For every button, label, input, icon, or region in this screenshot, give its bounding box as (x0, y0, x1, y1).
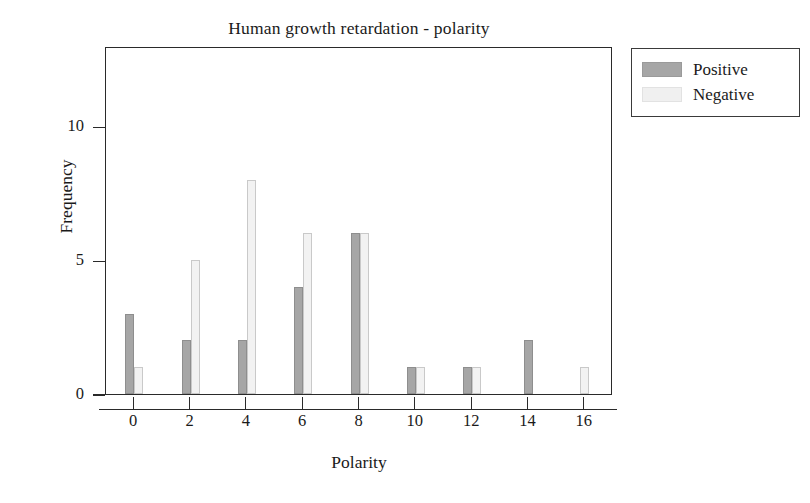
x-axis-tick-label: 10 (393, 413, 437, 430)
bar-group (125, 46, 143, 394)
chart-title: Human growth retardation - polarity (105, 18, 613, 39)
bar-group (182, 46, 200, 394)
bar-negative-6 (303, 233, 312, 394)
legend-label-positive: Positive (693, 60, 748, 80)
bar-negative-12 (472, 367, 481, 394)
x-axis-tick-label: 6 (280, 413, 324, 430)
x-axis-tick-mark (414, 397, 415, 409)
bar-positive-6 (294, 287, 303, 394)
legend-swatch-positive-icon (642, 62, 682, 77)
y-axis-tick-label: 5 (44, 252, 84, 269)
bar-group (407, 46, 425, 394)
bar-group (576, 46, 594, 394)
bar-negative-16 (580, 367, 589, 394)
bar-positive-2 (182, 340, 191, 394)
plot-frame (105, 47, 612, 395)
bar-group (463, 46, 481, 394)
y-axis-tick-label: 10 (44, 118, 84, 135)
plot-area (106, 48, 611, 394)
x-axis-tick-label: 12 (449, 413, 493, 430)
x-axis-tick-mark (302, 397, 303, 409)
x-axis-tick-mark (471, 397, 472, 409)
bar-positive-8 (351, 233, 360, 394)
bar-positive-4 (238, 340, 247, 394)
x-axis-tick-mark (133, 397, 134, 409)
x-axis-tick-mark (527, 397, 528, 409)
legend-item-positive[interactable]: Positive (642, 57, 789, 82)
y-axis-tick-mark (93, 127, 105, 128)
bar-positive-0 (125, 314, 134, 394)
legend-label-negative: Negative (693, 85, 754, 105)
bar-positive-10 (407, 367, 416, 394)
bar-positive-14 (524, 340, 533, 394)
y-axis-tick-mark (93, 261, 105, 262)
bar-group (351, 46, 369, 394)
chart-legend: Positive Negative (631, 48, 800, 117)
bar-group (238, 46, 256, 394)
y-axis-tick-mark (93, 394, 105, 395)
x-axis-tick-label: 8 (337, 413, 381, 430)
x-axis-tick-label: 16 (562, 413, 606, 430)
x-axis-tick-mark (358, 397, 359, 409)
chart-figure: Human growth retardation - polarity Freq… (0, 0, 810, 503)
legend-item-negative[interactable]: Negative (642, 82, 789, 107)
x-axis-tick-label: 14 (506, 413, 550, 430)
bar-positive-12 (463, 367, 472, 394)
x-axis-tick-label: 4 (224, 413, 268, 430)
x-axis-tick-label: 0 (111, 413, 155, 430)
y-axis-tick-label: 0 (44, 386, 84, 403)
x-axis-tick-mark (189, 397, 190, 409)
bar-negative-0 (134, 367, 143, 394)
bar-negative-4 (247, 180, 256, 394)
bar-negative-2 (191, 260, 200, 394)
bar-group (294, 46, 312, 394)
x-axis-tick-label: 2 (168, 413, 212, 430)
bar-negative-10 (416, 367, 425, 394)
bar-group (520, 46, 538, 394)
x-axis-tick-mark (245, 397, 246, 409)
x-axis-tick-mark (583, 397, 584, 409)
x-axis-label: Polarity (105, 452, 613, 473)
legend-swatch-negative-icon (642, 87, 682, 102)
bar-negative-8 (360, 233, 369, 394)
